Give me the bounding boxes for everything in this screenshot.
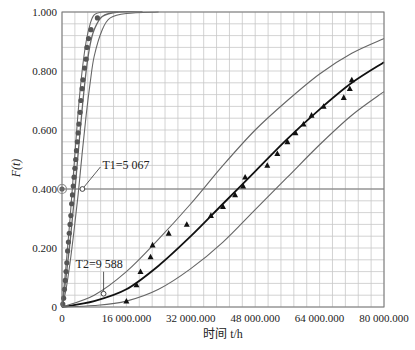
circle-marker	[63, 278, 68, 283]
x-tick-label: 0	[59, 312, 65, 324]
y-tick-label: 0.800	[32, 65, 57, 77]
circle-marker	[66, 240, 71, 245]
circle-marker	[67, 231, 72, 236]
circle-marker	[64, 260, 69, 265]
triangle-marker	[341, 94, 347, 100]
t2-label: T2=9 588	[76, 257, 123, 271]
circle-marker	[80, 77, 85, 82]
circle-marker	[72, 166, 77, 171]
triangle-marker	[148, 254, 154, 260]
circle-marker	[86, 36, 91, 41]
circle-marker	[84, 45, 89, 50]
y-tick-label: 1.000	[32, 6, 57, 18]
t1-leader	[82, 167, 100, 189]
x-tick-label: 64 000.000	[295, 312, 345, 324]
circle-marker	[71, 175, 76, 180]
circle-marker	[82, 65, 87, 70]
x-tick-label: 32 000.000	[166, 312, 216, 324]
y-tick-label: 0	[52, 301, 58, 313]
circle-marker	[84, 57, 89, 62]
circle-marker	[68, 213, 73, 218]
circle-marker	[69, 201, 74, 206]
circle-marker	[95, 15, 100, 20]
triangle-marker	[349, 77, 355, 83]
t1-point	[80, 187, 85, 192]
t2-point	[101, 291, 106, 296]
circle-marker	[67, 222, 72, 227]
x-tick-label: 48 000.000	[230, 312, 280, 324]
circle-marker	[76, 130, 81, 135]
y-highlight-dot	[59, 186, 64, 191]
curve-group-2-lower-bound	[62, 92, 384, 307]
circle-marker	[73, 157, 78, 162]
circle-marker	[88, 27, 93, 32]
x-tick-label: 80 000.000	[359, 312, 409, 324]
y-tick-label: 0.400	[32, 183, 57, 195]
cdf-chart: 016 000.00032 000.00048 000.00064 000.00…	[0, 0, 415, 350]
y-tick-label: 0.200	[32, 242, 57, 254]
circle-marker	[80, 86, 85, 91]
y-tick-label: 0.600	[32, 124, 57, 136]
circle-marker	[71, 183, 76, 188]
circle-marker	[63, 269, 68, 274]
y-axis-label: F(t)	[9, 159, 23, 179]
circle-marker	[78, 110, 83, 115]
circle-marker	[60, 301, 65, 306]
circle-marker	[62, 287, 67, 292]
circle-marker	[75, 139, 80, 144]
circle-marker	[78, 98, 83, 103]
circle-marker	[76, 122, 81, 127]
circle-marker	[70, 192, 75, 197]
x-tick-label: 16 000.000	[102, 312, 152, 324]
x-axis-label: 时间 t/h	[203, 327, 243, 341]
t1-label: T1=5 067	[102, 158, 149, 172]
circle-marker	[74, 148, 79, 153]
circle-marker	[65, 248, 70, 253]
